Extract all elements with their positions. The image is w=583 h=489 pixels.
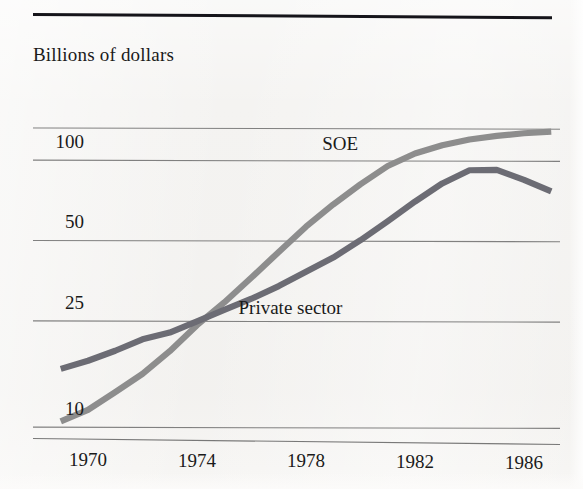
series-label-soe: SOE [322, 133, 358, 155]
series-lines [61, 132, 552, 422]
x-tick-label-1986: 1986 [505, 452, 543, 474]
series-line-soe [61, 132, 552, 422]
y-tick-label-25: 25 [24, 292, 84, 314]
x-tick-label-1974: 1974 [178, 450, 216, 472]
series-line-private-sector [61, 170, 552, 369]
x-tick-label-1970: 1970 [69, 449, 107, 471]
y-tick-label-10: 10 [24, 398, 84, 420]
y-tick-label-100: 100 [24, 131, 84, 153]
x-tick-label-1982: 1982 [396, 451, 434, 473]
chart-figure: Billions of dollars 100 50 25 10 1970 19… [0, 0, 583, 489]
y-tick-label-50: 50 [24, 211, 84, 233]
x-tick-label-1978: 1978 [287, 450, 325, 472]
plot-area [0, 0, 583, 489]
series-label-private-sector: Private sector [239, 297, 343, 319]
